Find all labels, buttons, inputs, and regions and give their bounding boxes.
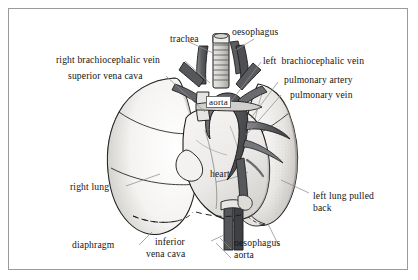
label-pulmonary-vein: pulmonary vein [290, 89, 353, 101]
label-left-brachiocephalic-vein: left brachiocephalic vein [263, 55, 364, 67]
label-inferior-vena-cava-line2: vena cava [146, 248, 185, 260]
trachea-shape [213, 34, 229, 88]
label-superior-vena-cava: superior vena cava [68, 70, 143, 82]
label-inferior-vena-cava-line1: inferior [155, 236, 185, 248]
label-trachea: trachea [170, 33, 199, 45]
figure-page: trachea oesophagus right brachiocephalic… [0, 0, 418, 280]
label-left-lung-pulled-back-line1: left lung pulled [313, 190, 374, 202]
label-right-lung: right lung [70, 181, 109, 193]
leader-diaphragm [139, 232, 152, 245]
label-pulmonary-artery: pulmonary artery [284, 74, 353, 86]
label-heart: heart [210, 168, 230, 179]
label-oesophagus-top: oesophagus [232, 26, 278, 38]
label-aorta-boxed: aorta [206, 96, 231, 108]
label-left-lung-pulled-back-line2: back [313, 202, 332, 214]
label-aorta-bottom: aorta [234, 249, 254, 261]
anatomy-illustration [0, 0, 418, 280]
label-diaphragm: diaphragm [72, 239, 114, 251]
label-oesophagus-bottom: oesophagus [234, 237, 280, 249]
label-right-brachiocephalic-vein: right brachiocephalic vein [56, 54, 160, 66]
